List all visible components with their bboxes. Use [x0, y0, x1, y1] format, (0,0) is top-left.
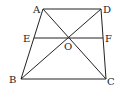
diagonal-bd	[21, 9, 101, 79]
label-b: B	[9, 74, 16, 85]
segment-ab	[21, 9, 43, 79]
trapezoid-diagram: A D E F O B C	[0, 0, 121, 87]
label-c: C	[107, 76, 115, 87]
label-o: O	[64, 41, 72, 52]
label-f: F	[105, 33, 112, 44]
label-d: D	[103, 4, 111, 15]
diagonal-ac	[43, 9, 106, 79]
label-e: E	[23, 33, 30, 44]
segment-dc	[101, 9, 106, 79]
label-a: A	[32, 4, 41, 15]
